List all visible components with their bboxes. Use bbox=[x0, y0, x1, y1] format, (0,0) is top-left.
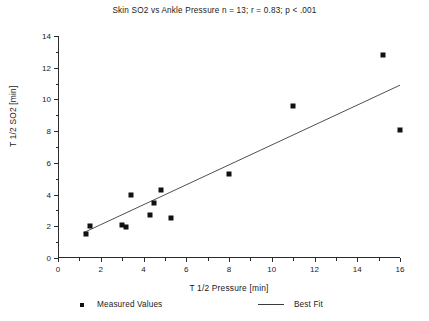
legend-label-best-fit: Best Fit bbox=[294, 300, 323, 309]
data-point bbox=[291, 103, 296, 108]
data-points-layer bbox=[58, 36, 400, 258]
x-tick-label: 16 bbox=[396, 265, 405, 274]
y-tick-label: 12 bbox=[42, 63, 51, 72]
plot-area: 02468101214 0246810121416 bbox=[58, 36, 400, 258]
x-tick-label: 2 bbox=[99, 265, 103, 274]
chart-title: Skin SO2 vs Ankle Pressure n = 13; r = 0… bbox=[0, 6, 429, 15]
data-point bbox=[147, 213, 152, 218]
y-tick-label: 0 bbox=[47, 254, 51, 263]
x-tick-mark-minor bbox=[379, 258, 380, 261]
legend-item-best-fit: Best Fit bbox=[258, 300, 323, 309]
y-tick-label: 6 bbox=[47, 158, 51, 167]
y-tick-label: 14 bbox=[42, 32, 51, 41]
x-tick-mark bbox=[229, 258, 230, 262]
x-tick-label: 0 bbox=[56, 265, 60, 274]
x-tick-mark-minor bbox=[208, 258, 209, 261]
x-axis-title: T 1/2 Pressure [min] bbox=[58, 283, 400, 293]
data-point bbox=[398, 127, 403, 132]
x-tick-mark-minor bbox=[293, 258, 294, 261]
x-tick-label: 10 bbox=[267, 265, 276, 274]
square-marker-icon bbox=[80, 303, 84, 307]
y-tick-label: 8 bbox=[47, 127, 51, 136]
x-tick-mark bbox=[101, 258, 102, 262]
data-point bbox=[152, 200, 157, 205]
data-point bbox=[83, 232, 88, 237]
chart-legend: Measured Values Best Fit bbox=[58, 300, 400, 314]
x-tick-mark bbox=[58, 258, 59, 262]
x-tick-mark-minor bbox=[165, 258, 166, 261]
x-tick-label: 8 bbox=[227, 265, 231, 274]
data-point bbox=[158, 187, 163, 192]
data-point bbox=[227, 171, 232, 176]
y-tick-label: 2 bbox=[47, 222, 51, 231]
x-tick-mark bbox=[144, 258, 145, 262]
chart-figure: Skin SO2 vs Ankle Pressure n = 13; r = 0… bbox=[0, 0, 429, 321]
x-tick-mark bbox=[186, 258, 187, 262]
x-tick-mark bbox=[357, 258, 358, 262]
y-axis-title: T 1/2 SO2 [min] bbox=[8, 86, 18, 148]
x-tick-mark bbox=[400, 258, 401, 262]
y-tick-label: 4 bbox=[47, 190, 51, 199]
data-point bbox=[169, 216, 174, 221]
x-tick-label: 6 bbox=[184, 265, 188, 274]
x-tick-mark-minor bbox=[79, 258, 80, 261]
x-tick-mark-minor bbox=[250, 258, 251, 261]
data-point bbox=[380, 53, 385, 58]
y-tick-label: 10 bbox=[42, 95, 51, 104]
data-point bbox=[128, 192, 133, 197]
x-tick-label: 4 bbox=[141, 265, 145, 274]
x-tick-label: 12 bbox=[310, 265, 319, 274]
legend-item-measured-values: Measured Values bbox=[80, 300, 162, 309]
x-tick-mark bbox=[272, 258, 273, 262]
x-tick-label: 14 bbox=[353, 265, 362, 274]
x-tick-mark-minor bbox=[122, 258, 123, 261]
line-marker-icon bbox=[258, 304, 284, 305]
legend-label-measured-values: Measured Values bbox=[97, 300, 162, 309]
data-point bbox=[124, 225, 129, 230]
x-tick-mark bbox=[315, 258, 316, 262]
data-point bbox=[88, 224, 93, 229]
x-tick-mark-minor bbox=[336, 258, 337, 261]
